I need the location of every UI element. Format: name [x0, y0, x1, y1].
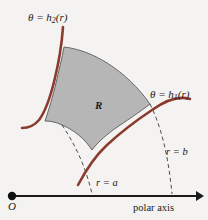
origin-point-dot — [8, 192, 16, 200]
label-region-R: R — [95, 100, 102, 111]
label-origin-O: O — [8, 201, 16, 212]
label-r-equals-a: r = a — [96, 178, 118, 189]
theta-symbol-h2: θ — [28, 11, 33, 23]
label-theta-h2: θ = h2(r) — [28, 12, 67, 25]
polar-axis-arrowhead — [196, 191, 204, 201]
theta-symbol-h1: θ — [150, 88, 155, 100]
of-r-h2: (r) — [56, 11, 68, 23]
polar-region-figure: θ = h2(r) θ = h1(r) r = b r = a R O pola… — [0, 0, 208, 220]
label-polar-axis: polar axis — [133, 203, 174, 214]
equals-h1: = — [158, 88, 165, 100]
equals-h2: = — [36, 11, 43, 23]
of-r-h1: (r) — [178, 88, 190, 100]
label-r-equals-b: r = b — [166, 147, 188, 158]
label-theta-h1: θ = h1(r) — [150, 89, 189, 102]
